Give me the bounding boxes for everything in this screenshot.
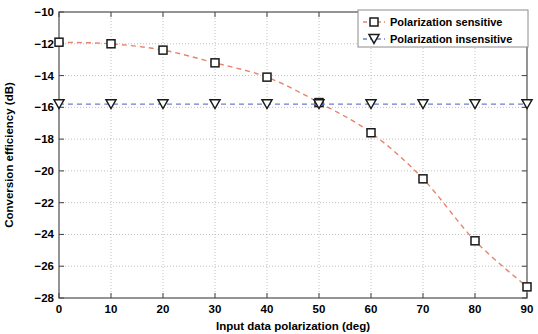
marker-square (419, 175, 427, 183)
legend-label: Polarization sensitive (390, 16, 502, 28)
y-tick-label: −20 (34, 165, 54, 177)
marker-square (107, 40, 115, 48)
x-tick-label: 90 (521, 303, 534, 315)
x-tick-label: 80 (469, 303, 482, 315)
marker-square (523, 283, 531, 291)
marker-square (159, 46, 167, 54)
x-tick-label: 50 (313, 303, 326, 315)
marker-square (263, 73, 271, 81)
figure-background (0, 0, 538, 334)
y-tick-label: −22 (34, 197, 54, 209)
legend-label: Polarization insensitive (390, 33, 512, 45)
y-tick-label: −18 (34, 133, 54, 145)
marker-square (370, 18, 378, 26)
x-tick-label: 0 (56, 303, 62, 315)
y-tick-label: −28 (34, 292, 54, 304)
x-tick-label: 60 (365, 303, 378, 315)
marker-square (211, 59, 219, 67)
y-tick-label: −12 (34, 38, 54, 50)
marker-square (55, 38, 63, 46)
marker-square (471, 237, 479, 245)
x-axis-title: Input data polarization (deg) (216, 320, 370, 332)
x-tick-label: 40 (261, 303, 274, 315)
chart-legend[interactable]: Polarization sensitivePolarization insen… (358, 10, 528, 47)
y-tick-label: −24 (34, 228, 54, 240)
chart-figure: 0102030405060708090 −10−12−14−16−18−20−2… (0, 0, 538, 334)
x-tick-label: 70 (417, 303, 430, 315)
y-tick-label: −26 (34, 260, 54, 272)
y-tick-label: −14 (34, 70, 54, 82)
y-tick-label: −16 (34, 101, 54, 113)
x-tick-label: 10 (105, 303, 118, 315)
y-axis-title: Conversion efficiency (dB) (3, 82, 15, 228)
marker-square (367, 129, 375, 137)
x-tick-label: 30 (209, 303, 222, 315)
conversion-efficiency-chart: 0102030405060708090 −10−12−14−16−18−20−2… (0, 0, 538, 334)
x-tick-label: 20 (157, 303, 170, 315)
y-tick-label: −10 (34, 6, 54, 18)
